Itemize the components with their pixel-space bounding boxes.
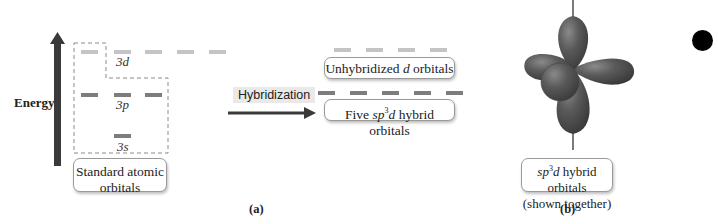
orbital-3d-label: 3d	[116, 54, 129, 70]
orbital-3p-label: 3p	[116, 97, 129, 113]
orbital-3d-4	[177, 50, 194, 54]
hybrid-orbital-5	[446, 91, 463, 95]
hybridization-label: Hybridization	[233, 87, 315, 103]
unhybridized-d-3	[398, 48, 415, 52]
orbital-3p-1	[81, 93, 98, 97]
box-line-1: sp3d hybrid orbitals	[522, 161, 612, 196]
standard-atomic-orbitals-box: Standard atomic orbitals	[73, 158, 167, 192]
sp3d-shown-together-box: sp3d hybrid orbitals (shown together)	[521, 158, 613, 192]
unhybridized-d-box: Unhybridized d orbitals	[324, 57, 455, 79]
sp3d-orbital-lobes-icon	[520, 0, 640, 152]
hybrid-orbital-2	[350, 91, 367, 95]
hybrid-orbital-4	[414, 91, 431, 95]
orbital-3d-5	[209, 50, 226, 54]
box-line-1: Standard atomic	[74, 164, 166, 180]
unhybridized-d-4	[430, 48, 447, 52]
orbital-3s-1	[114, 134, 131, 138]
hybridization-arrow-icon	[228, 107, 316, 119]
panel-a-caption: (a)	[249, 202, 264, 217]
black-dot	[692, 30, 713, 51]
unhybridized-d-1	[334, 48, 351, 52]
energy-axis-label: Energy	[14, 95, 54, 111]
unhybridized-d-2	[366, 48, 383, 52]
hybrid-orbital-1	[318, 91, 335, 95]
hybrid-orbital-3	[382, 91, 399, 95]
hybrid-orbitals-box: Five sp3d hybrid orbitals	[324, 99, 455, 121]
orbital-3s-label: 3s	[117, 139, 129, 155]
orbital-3p-3	[145, 93, 162, 97]
panel-b-caption: (b)	[560, 202, 575, 217]
box-line-2: orbitals	[74, 180, 166, 196]
orbital-3d-1	[81, 50, 98, 54]
orbital-3d-3	[145, 50, 162, 54]
